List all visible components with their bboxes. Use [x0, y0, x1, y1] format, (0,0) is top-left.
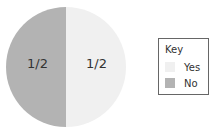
no-swatch: [165, 78, 175, 88]
legend-entry-yes: Yes: [165, 61, 200, 73]
legend-key: Key Yes No: [158, 38, 209, 95]
no-fraction-label: 1/2: [27, 56, 48, 71]
legend-entry-no: No: [165, 77, 198, 89]
legend-title: Key: [165, 44, 183, 55]
legend-label-no: No: [184, 78, 198, 89]
legend-label-yes: Yes: [184, 62, 200, 73]
yes-swatch: [165, 62, 175, 72]
yes-fraction-label: 1/2: [86, 56, 107, 71]
